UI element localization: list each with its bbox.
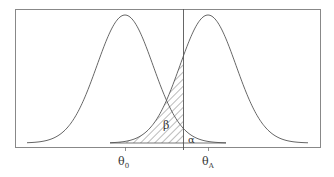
alternative-distribution-curve xyxy=(110,15,308,143)
alpha-label: α xyxy=(188,134,195,145)
beta-label: β xyxy=(163,119,169,132)
tick-label-thetaA: θA xyxy=(202,155,214,170)
beta-region xyxy=(110,57,183,143)
power-diagram-plot xyxy=(0,0,334,177)
null-distribution-curve xyxy=(27,15,226,143)
tick-label-theta0: θ0 xyxy=(118,155,129,170)
